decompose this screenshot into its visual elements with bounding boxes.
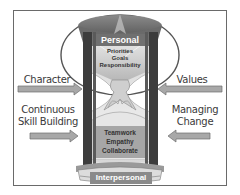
top-item: Priorities bbox=[94, 48, 146, 55]
bottom-items-list: Teamwork Empathy Collaborate bbox=[94, 128, 146, 155]
label-change: Change bbox=[172, 116, 218, 127]
top-label: Personal bbox=[84, 35, 156, 45]
arrow-skill-building bbox=[30, 130, 78, 142]
hourglass-graphic bbox=[0, 0, 240, 195]
label-values: Values bbox=[172, 74, 212, 85]
bottom-label: Interpersonal bbox=[90, 173, 152, 183]
bottom-item: Empathy bbox=[94, 137, 146, 146]
left-pillar bbox=[83, 32, 92, 170]
label-skill-building: Skill Building bbox=[16, 116, 80, 127]
arrow-managing-change bbox=[168, 130, 210, 142]
top-items-list: Priorities Goals Responsibility bbox=[94, 48, 146, 69]
bottom-item: Teamwork bbox=[94, 128, 146, 137]
top-item: Goals bbox=[94, 55, 146, 62]
bottom-item: Collaborate bbox=[94, 146, 146, 155]
label-character: Character bbox=[22, 74, 72, 85]
label-continuous: Continuous bbox=[18, 104, 78, 115]
label-managing: Managing bbox=[170, 104, 220, 115]
top-item: Responsibility bbox=[94, 62, 146, 69]
right-pillar bbox=[149, 32, 158, 170]
